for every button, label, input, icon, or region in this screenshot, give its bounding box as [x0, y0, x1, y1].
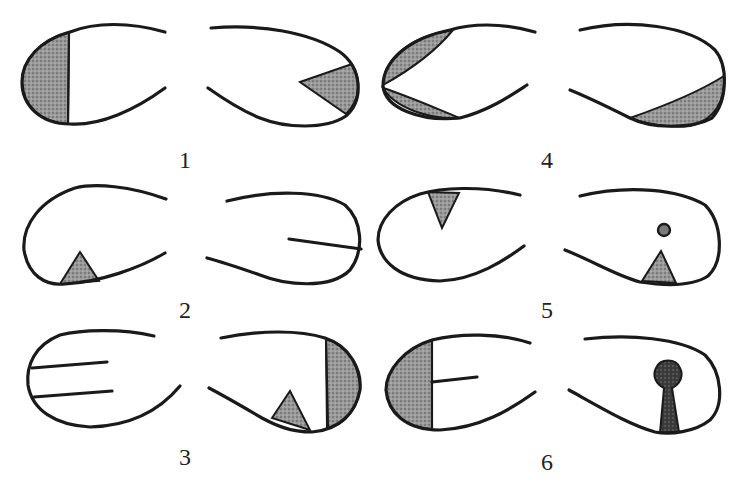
- panel-label-3: 3: [179, 444, 191, 470]
- panel-6-left-figure: [386, 335, 535, 430]
- panel-1-left-figure: [22, 25, 165, 125]
- panel-label-2: 2: [179, 297, 191, 323]
- small-circle: [658, 224, 670, 236]
- diagram-canvas: 1 4 2: [0, 0, 746, 494]
- panel-3-left-figure: [28, 331, 180, 427]
- horizontal-line-top: [32, 362, 107, 368]
- panel-5-right-figure: [565, 190, 719, 285]
- horizontal-line: [432, 377, 477, 382]
- panel-4-left-figure: [383, 25, 535, 119]
- oval-outline: [569, 337, 720, 433]
- shaded-segment: [22, 32, 69, 124]
- shaded-triangle: [642, 251, 676, 283]
- panel-5-left-figure: [378, 188, 524, 281]
- panel-2-left-figure: [24, 186, 166, 285]
- panel-1-right-figure: [208, 27, 358, 126]
- oval-outline: [565, 190, 719, 285]
- panel-label-4: 4: [541, 147, 553, 173]
- panel-4: 4: [383, 24, 724, 173]
- panel-5: 5: [378, 188, 719, 323]
- panel-3: 3: [28, 331, 360, 470]
- oval-outline: [207, 193, 360, 284]
- panel-label-6: 6: [541, 449, 553, 475]
- panel-4-right-figure: [570, 24, 724, 126]
- horizontal-line-bottom: [34, 391, 112, 397]
- oval-outline: [28, 331, 180, 427]
- panel-6: 6: [386, 335, 720, 475]
- shaded-segment: [386, 340, 432, 429]
- shaded-triangle: [428, 192, 459, 228]
- panel-label-1: 1: [179, 147, 191, 173]
- panel-label-5: 5: [541, 297, 553, 323]
- oval-outline: [24, 186, 166, 285]
- panel-6-right-figure: [569, 337, 720, 433]
- panel-3-right-figure: [209, 332, 360, 432]
- shaded-triangle: [300, 64, 358, 114]
- panel-2: 2: [24, 186, 361, 323]
- horizontal-line: [289, 239, 361, 249]
- panel-2-right-figure: [207, 193, 361, 284]
- keyhole-shape: [654, 361, 681, 434]
- shaded-segment: [326, 339, 360, 428]
- panel-1: 1: [22, 25, 358, 174]
